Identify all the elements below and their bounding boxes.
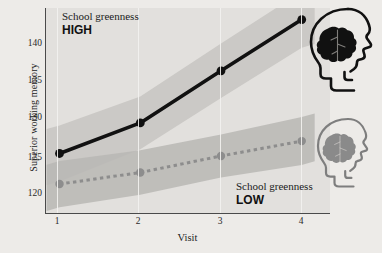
annotation-high: School greenness HIGH: [62, 10, 139, 38]
x-tick-label-2: 2: [126, 216, 150, 226]
annotation-low-value: LOW: [236, 193, 313, 208]
x-axis-title: Visit: [45, 232, 330, 243]
figure-canvas: 140 135 130 125 120 1 2 3 4 Superior wor…: [0, 0, 382, 253]
annotation-high-value: HIGH: [62, 23, 139, 38]
gridline-visit-1: [57, 8, 58, 213]
x-tick-label-4: 4: [289, 216, 313, 226]
x-tick-label-1: 1: [45, 216, 69, 226]
y-axis-line: [45, 8, 46, 213]
x-axis-line: [45, 213, 330, 214]
gridline-visit-3: [220, 8, 221, 213]
annotation-high-title: School greenness: [62, 10, 139, 23]
annotation-low: School greenness LOW: [236, 180, 313, 208]
x-tick-label-3: 3: [208, 216, 232, 226]
head-brain-dark-icon: [304, 6, 374, 92]
y-axis-title: Superior working memory: [28, 38, 39, 198]
annotation-low-title: School greenness: [236, 180, 313, 193]
gridline-visit-2: [138, 8, 139, 213]
head-brain-gray-icon: [312, 116, 370, 188]
